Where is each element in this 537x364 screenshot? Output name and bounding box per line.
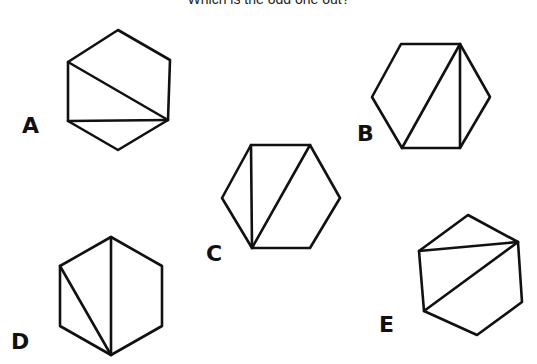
hexagon-outline	[68, 30, 170, 150]
hexagon-outline	[419, 215, 522, 335]
diagonal-line	[252, 145, 310, 248]
figure-e[interactable]	[419, 215, 522, 335]
diagonal-line	[424, 242, 518, 311]
label-e: E	[379, 314, 394, 336]
figure-d[interactable]	[60, 237, 162, 355]
label-c: C	[206, 243, 222, 265]
figure-a[interactable]	[68, 30, 170, 150]
figures-canvas	[0, 0, 537, 364]
label-a: A	[22, 115, 39, 137]
figure-b[interactable]	[372, 44, 490, 148]
diagonal-line	[402, 44, 460, 148]
label-d: D	[11, 331, 29, 353]
diagonal-line	[68, 62, 168, 120]
label-b: B	[357, 123, 374, 145]
figure-c[interactable]	[222, 145, 340, 248]
diagonal-line	[419, 242, 518, 251]
diagonal-line	[68, 120, 168, 121]
diagonal-line	[251, 145, 252, 248]
